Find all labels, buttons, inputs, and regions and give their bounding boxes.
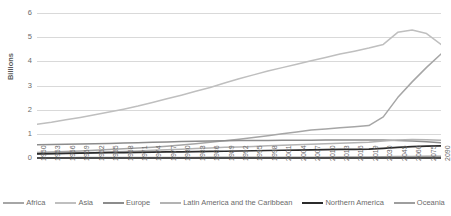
legend-swatch-europe <box>103 202 124 204</box>
legend-label-europe: Europe <box>126 199 150 207</box>
x-axis-tick-label: 1953 <box>54 145 61 161</box>
x-axis-tick-label: 2045 <box>401 145 408 161</box>
x-axis-tick-label: 2019 <box>372 145 379 161</box>
x-axis-tick-label: 1992 <box>242 145 249 161</box>
x-axis-tick-label: 1965 <box>112 145 119 161</box>
legend-item-latin-america-and-the-caribbean[interactable]: Latin America and the Caribbean <box>160 199 292 207</box>
legend-label-oceania: Oceania <box>417 199 445 207</box>
x-axis-tick-label: 1986 <box>213 145 220 161</box>
x-axis-tick-label: 2060 <box>415 145 422 161</box>
y-axis-tick-label: 5 <box>14 33 32 41</box>
legend-item-northern-america[interactable]: Northern America <box>302 199 383 207</box>
y-axis-tick-label: 1 <box>14 130 32 138</box>
x-axis-tick-label: 1980 <box>184 145 191 161</box>
x-axis-tick-label: 1989 <box>228 145 235 161</box>
x-axis-tick-label: 1950 <box>40 145 47 161</box>
y-axis-tick-label: 0 <box>14 154 32 162</box>
legend-swatch-asia <box>55 202 76 204</box>
y-axis-tick-label: 6 <box>14 9 32 17</box>
legend-swatch-africa <box>3 202 24 204</box>
x-axis-tick-label: 1998 <box>271 145 278 161</box>
y-axis-tick-label: 4 <box>14 57 32 65</box>
legend-item-oceania[interactable]: Oceania <box>394 199 445 207</box>
x-axis-tick-label: 1971 <box>141 145 148 161</box>
x-axis-tick-label: 2007 <box>314 145 321 161</box>
x-axis-tick-label: 1968 <box>127 145 134 161</box>
x-axis-tick-label: 2030 <box>386 145 393 161</box>
x-axis-tick-label: 2075 <box>430 145 437 161</box>
legend-label-asia: Asia <box>78 199 93 207</box>
x-axis-tick-label: 1962 <box>98 145 105 161</box>
legend-swatch-northern-america <box>302 202 323 204</box>
legend-item-africa[interactable]: Africa <box>3 199 45 207</box>
chart-legend: AfricaAsiaEuropeLatin America and the Ca… <box>0 196 448 210</box>
x-axis-tick-label: 2010 <box>329 145 336 161</box>
x-axis-tick-label: 1995 <box>256 145 263 161</box>
x-axis-tick-label: 2090 <box>444 145 451 161</box>
x-axis-tick-label: 1974 <box>155 145 162 161</box>
x-axis-tick-label: 1977 <box>170 145 177 161</box>
x-axis-tick-label: 2016 <box>357 145 364 161</box>
legend-label-latin-america-and-the-caribbean: Latin America and the Caribbean <box>183 199 292 207</box>
legend-item-asia[interactable]: Asia <box>55 199 93 207</box>
series-lines <box>37 13 441 158</box>
series-line-africa <box>37 54 441 152</box>
x-axis-tick-label: 1959 <box>83 145 90 161</box>
x-axis-tick-label: 2013 <box>343 145 350 161</box>
legend-label-northern-america: Northern America <box>325 199 383 207</box>
x-axis-tick-label: 1983 <box>199 145 206 161</box>
x-axis-tick-label: 2004 <box>300 145 307 161</box>
x-axis-tick-label: 1956 <box>69 145 76 161</box>
legend-swatch-oceania <box>394 202 415 204</box>
series-line-asia <box>37 30 441 124</box>
y-axis-tick-label: 2 <box>14 106 32 114</box>
y-axis-tick-label: 3 <box>14 82 32 90</box>
legend-item-europe[interactable]: Europe <box>103 199 150 207</box>
legend-label-africa: Africa <box>26 199 45 207</box>
plot-area <box>37 13 441 158</box>
legend-swatch-latin-america-and-the-caribbean <box>160 202 181 204</box>
x-axis-tick-label: 2001 <box>285 145 292 161</box>
